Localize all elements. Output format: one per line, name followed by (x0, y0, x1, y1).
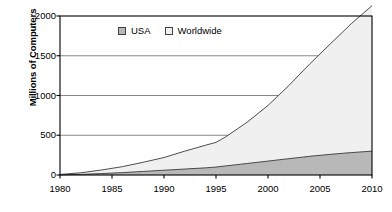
x-tick-label-1985: 1985 (92, 183, 132, 194)
x-tick-label-2010: 2010 (352, 183, 392, 194)
legend-item-usa: USA (118, 26, 151, 36)
chart-legend: USA Worldwide (118, 26, 222, 36)
legend-item-worldwide: Worldwide (165, 26, 222, 36)
chart-container: Millions of Computers 2000 1500 1000 500… (0, 0, 392, 212)
x-tick-label-2000: 2000 (248, 183, 288, 194)
x-tick-label-2005: 2005 (300, 183, 340, 194)
legend-swatch-worldwide (165, 27, 173, 35)
x-tick-label-1980: 1980 (40, 183, 80, 194)
x-tick-label-1995: 1995 (196, 183, 236, 194)
x-tick-label-1990: 1990 (144, 183, 184, 194)
legend-swatch-usa (118, 27, 126, 35)
legend-label-worldwide: Worldwide (178, 26, 222, 36)
legend-label-usa: USA (131, 26, 151, 36)
